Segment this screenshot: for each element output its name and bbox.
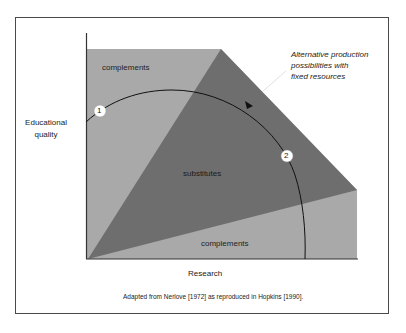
x-axis-label: Research: [188, 269, 222, 278]
annotation-text: Alternative production possibilities wit…: [291, 49, 368, 82]
annotation-line-3: fixed resources: [291, 71, 368, 82]
region-label-substitutes: substitutes: [183, 169, 221, 178]
region-label-complements-bottom: complements: [201, 239, 249, 248]
region-label-complements-top: complements: [102, 63, 150, 72]
annotation-line-2: possibilities with: [291, 60, 368, 71]
marker-2-label: 2: [284, 151, 288, 160]
y-axis-label-line-1: Educational: [20, 117, 72, 129]
y-axis-label-line-2: quality: [20, 129, 72, 141]
annotation-line-1: Alternative production: [291, 49, 368, 60]
marker-1-label: 1: [97, 106, 101, 115]
y-axis-label: Educational quality: [20, 117, 72, 141]
annotation-leader-line: [262, 71, 286, 92]
figure-caption: Adapted from Nerlove [1972] as reproduce…: [123, 293, 303, 300]
